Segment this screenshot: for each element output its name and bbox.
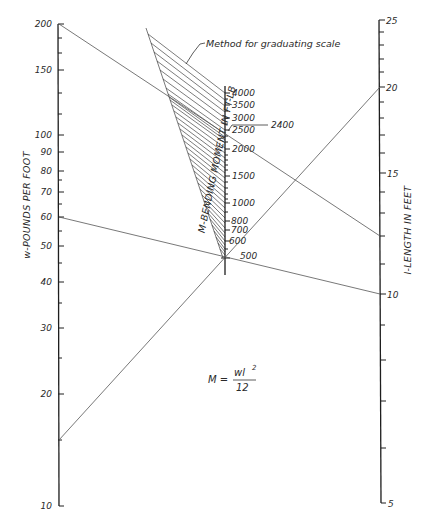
m-label-600: 600 xyxy=(229,236,246,246)
graduating-note: Method for graduating scale xyxy=(186,38,340,64)
l-label-5: 5 xyxy=(388,499,394,509)
isopleth-200 xyxy=(59,24,380,236)
w-label-200: 200 xyxy=(35,19,52,29)
w-label-20: 20 xyxy=(41,389,53,399)
isopleth-60 xyxy=(59,217,380,294)
m-label-3500: 3500 xyxy=(232,100,255,110)
m-label-1000: 1000 xyxy=(232,198,255,208)
graduating-note-text: Method for graduating scale xyxy=(206,38,340,49)
formula-lhs: M = xyxy=(208,374,228,385)
w-label-60: 60 xyxy=(41,212,53,222)
m-axis: 4000 3500 3000 2500 2000 1500 1000 800 7… xyxy=(196,85,258,275)
l-label-15: 15 xyxy=(387,169,399,179)
l-label-25: 25 xyxy=(386,16,398,26)
w-label-100: 100 xyxy=(35,130,52,140)
w-label-30: 30 xyxy=(41,323,53,333)
m-label-500: 500 xyxy=(240,251,257,261)
formula-exponent: 2 xyxy=(252,364,257,372)
m-label-2500: 2500 xyxy=(232,125,255,135)
example-2400-label: 2400 xyxy=(271,120,294,130)
m-label-3000: 3000 xyxy=(232,113,255,123)
formula: M = wl 2 12 xyxy=(208,364,257,393)
m-label-700: 700 xyxy=(231,225,248,235)
l-label-20: 20 xyxy=(386,83,398,93)
formula-numerator: wl xyxy=(234,367,245,378)
nomogram: 200 150 100 90 80 70 60 50 40 30 20 10 w… xyxy=(0,0,431,526)
w-axis-title: w-POUNDS PER FOOT xyxy=(21,150,32,258)
l-label-10: 10 xyxy=(387,290,399,300)
w-label-150: 150 xyxy=(35,65,52,75)
l-axis-title: l-LENGTH IN FEET xyxy=(402,185,413,275)
w-axis: 200 150 100 90 80 70 60 50 40 30 20 10 w… xyxy=(21,19,64,511)
w-label-70: 70 xyxy=(41,187,53,197)
l-axis: 25 20 15 10 5 l-LENGTH IN FEET xyxy=(379,16,413,509)
w-label-50: 50 xyxy=(41,241,53,251)
formula-denominator: 12 xyxy=(236,382,249,393)
w-label-90: 90 xyxy=(41,147,53,157)
w-label-80: 80 xyxy=(41,166,53,176)
graduation-wedge xyxy=(146,28,225,258)
w-label-10: 10 xyxy=(41,501,53,511)
m-label-1500: 1500 xyxy=(232,171,255,181)
w-label-40: 40 xyxy=(41,277,53,287)
